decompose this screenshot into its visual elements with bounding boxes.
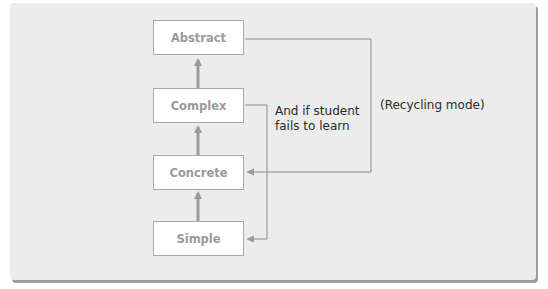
box-abstract: Abstract (153, 20, 244, 55)
fail-annotation: And if student fails to learn (275, 104, 360, 134)
recycling-arrowhead (246, 169, 254, 176)
fail-annotation-line2: fails to learn (275, 119, 360, 134)
fail-annotation-line1: And if student (275, 104, 360, 119)
box-simple: Simple (153, 221, 244, 256)
recycling-annotation: (Recycling mode) (380, 98, 485, 113)
box-complex: Complex (153, 88, 244, 123)
connector-lines (0, 0, 548, 289)
fail-arrowhead (246, 236, 254, 243)
box-concrete: Concrete (153, 155, 244, 190)
